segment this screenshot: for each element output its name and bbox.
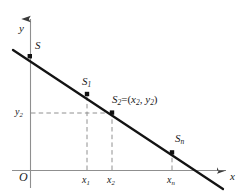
demand-line: [13, 50, 223, 189]
x-axis-label: x: [230, 171, 235, 182]
point-marker-S: [28, 54, 32, 58]
point-label-Sn-sub: n: [181, 137, 185, 146]
point-marker-S2: [110, 110, 114, 114]
point-label-S: S: [35, 40, 41, 51]
x-tick-label-x1-sub: 1: [86, 179, 89, 186]
y-tick-label-y2: y2: [15, 107, 23, 118]
y-axis-label: y: [19, 23, 24, 34]
point-label-Sn: Sn: [175, 133, 184, 145]
point-marker-S1: [85, 92, 89, 96]
point-label-S1-sub: 1: [88, 80, 92, 89]
x-tick-label-x2-sub: 2: [111, 179, 114, 186]
origin-label: O: [19, 171, 28, 183]
figure-canvas: y x O S S1 Sn S2=(x2, y2) y2 x1 x2 xn: [0, 0, 242, 196]
x-tick-label-xn-sub: n: [171, 179, 174, 186]
s2-eq-open: =(: [121, 93, 131, 105]
point-label-S-text: S: [35, 39, 41, 51]
y-tick-label-y2-sub: 2: [19, 111, 22, 118]
point-label-S1: S1: [82, 76, 91, 88]
point-marker-Sn: [170, 150, 174, 154]
point-label-S2-equation: S2=(x2, y2): [112, 94, 158, 106]
s2-eq-close: ): [154, 93, 158, 105]
x-tick-label-x2: x2: [107, 175, 115, 186]
x-tick-label-x1: x1: [82, 175, 90, 186]
x-tick-label-xn: xn: [167, 175, 175, 186]
